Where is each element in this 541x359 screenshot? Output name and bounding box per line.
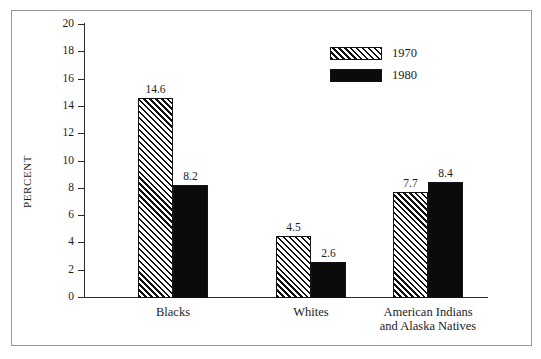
y-tick-label-0: 0 — [50, 291, 74, 303]
y-tick-label-wrap-18: 18 — [46, 45, 74, 57]
legend-swatch-1980 — [330, 69, 382, 82]
bar-value-label-1970-1: 14.6 — [130, 83, 181, 95]
bar-value-label-1970-2: 4.5 — [268, 221, 319, 233]
y-tick-label-10: 10 — [50, 155, 74, 167]
y-tick-label-14: 14 — [50, 100, 74, 112]
y-tick-label-6: 6 — [50, 209, 74, 221]
y-tick-2 — [78, 270, 84, 271]
y-tick-label-8: 8 — [50, 182, 74, 194]
legend: 1970 1980 — [330, 44, 460, 88]
y-tick-14 — [78, 106, 84, 107]
y-tick-label-wrap-16: 16 — [46, 73, 74, 85]
y-tick-label-18: 18 — [50, 45, 74, 57]
y-tick-label-wrap-14: 14 — [46, 100, 74, 112]
y-tick-label-4: 4 — [50, 236, 74, 248]
figure-canvas: PERCENT 02468101214161820 14.68.24.52.67… — [0, 0, 541, 359]
y-tick-20 — [78, 24, 84, 25]
y-tick-8 — [78, 188, 84, 189]
bar-1970-1 — [138, 98, 173, 298]
bar-1980-2 — [311, 262, 346, 298]
y-tick-label-wrap-0: 0 — [46, 291, 74, 303]
legend-swatch-1970 — [330, 47, 382, 60]
y-tick-label-16: 16 — [50, 73, 74, 85]
y-tick-label-wrap-4: 4 — [46, 236, 74, 248]
y-tick-4 — [78, 242, 84, 243]
y-tick-0 — [78, 297, 84, 298]
x-axis-label-group-1: Blacks — [98, 305, 248, 319]
y-tick-label-wrap-12: 12 — [46, 127, 74, 139]
bar-value-label-1980-3: 8.4 — [420, 167, 471, 179]
legend-label-1970: 1970 — [392, 45, 417, 61]
y-tick-16 — [78, 79, 84, 80]
legend-item-1980: 1980 — [330, 66, 460, 88]
y-tick-label-2: 2 — [50, 264, 74, 276]
y-tick-6 — [78, 215, 84, 216]
y-tick-12 — [78, 133, 84, 134]
y-axis-line — [84, 23, 85, 298]
y-tick-label-wrap-2: 2 — [46, 264, 74, 276]
y-tick-label-wrap-8: 8 — [46, 182, 74, 194]
y-tick-label-wrap-6: 6 — [46, 209, 74, 221]
y-tick-label-wrap-20: 20 — [46, 18, 74, 30]
y-tick-label-12: 12 — [50, 127, 74, 139]
y-tick-label-20: 20 — [50, 18, 74, 30]
bar-1980-1 — [173, 185, 208, 298]
y-tick-10 — [78, 161, 84, 162]
y-axis-title: PERCENT — [21, 192, 111, 208]
plot-area: PERCENT 02468101214161820 14.68.24.52.67… — [0, 0, 541, 359]
bar-1970-3 — [393, 192, 428, 298]
legend-label-1980: 1980 — [392, 67, 417, 83]
bar-1980-3 — [428, 182, 463, 298]
legend-item-1970: 1970 — [330, 44, 460, 66]
bar-value-label-1980-1: 8.2 — [165, 170, 216, 182]
bar-1970-2 — [276, 236, 311, 298]
x-axis-label-group-3: American Indians and Alaska Natives — [353, 305, 503, 333]
y-tick-label-wrap-10: 10 — [46, 155, 74, 167]
y-tick-18 — [78, 51, 84, 52]
bar-value-label-1980-2: 2.6 — [303, 247, 354, 259]
